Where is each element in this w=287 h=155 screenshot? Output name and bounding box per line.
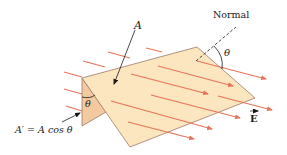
projected-area-pointer-arrow: [62, 113, 80, 122]
field-vector-label: E: [250, 111, 258, 124]
theta-top-label: θ: [224, 47, 230, 58]
field-label: E: [250, 113, 258, 124]
area-label: A: [133, 19, 142, 32]
electric-flux-diagram: A Normal θ θ A′ = A cos θ E: [0, 0, 287, 155]
theta-side-label: θ: [85, 98, 91, 109]
normal-label: Normal: [213, 9, 249, 20]
projected-area-formula: A′ = A cos θ: [14, 124, 73, 135]
